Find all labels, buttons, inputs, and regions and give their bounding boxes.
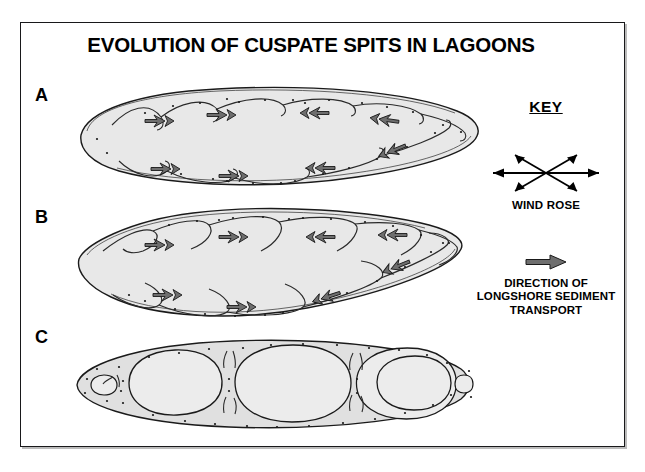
key-legend: KEY	[471, 98, 621, 317]
wind-rose-icon	[471, 151, 621, 191]
wind-rose-label: WIND ROSE	[471, 199, 621, 213]
enclosed-pond-2	[235, 345, 351, 422]
page-title: EVOLUTION OF CUSPATE SPITS IN LAGOONS	[51, 33, 571, 57]
panel-c-diagram	[57, 319, 487, 449]
figure-frame: EVOLUTION OF CUSPATE SPITS IN LAGOONS A	[20, 22, 625, 447]
small-pool-left	[91, 375, 117, 395]
panel-b-diagram	[57, 195, 487, 327]
transport-label-line-3: TRANSPORT	[471, 304, 621, 318]
panel-label-a: A	[35, 85, 48, 106]
panel-a-early-stage	[57, 73, 487, 203]
panel-label-c: C	[35, 327, 48, 348]
small-pool-right	[455, 375, 473, 393]
transport-label: DIRECTION OF LONGSHORE SEDIMENT TRANSPOR…	[471, 277, 621, 318]
panel-c-final-stage	[57, 319, 487, 449]
transport-arrow-svg	[524, 253, 568, 271]
figure-root: EVOLUTION OF CUSPATE SPITS IN LAGOONS A	[0, 0, 645, 472]
enclosed-pond-1	[129, 350, 222, 415]
transport-label-line-2: LONGSHORE SEDIMENT	[471, 290, 621, 304]
longshore-transport-arrow-icon	[471, 253, 621, 271]
transport-label-line-1: DIRECTION OF	[471, 277, 621, 291]
panel-b-intermediate-stage	[57, 195, 487, 327]
panel-a-diagram	[57, 73, 487, 203]
panel-label-b: B	[35, 207, 48, 228]
enclosed-pond-4	[377, 356, 451, 410]
key-title: KEY	[471, 98, 621, 116]
wind-rose-svg	[481, 151, 611, 195]
